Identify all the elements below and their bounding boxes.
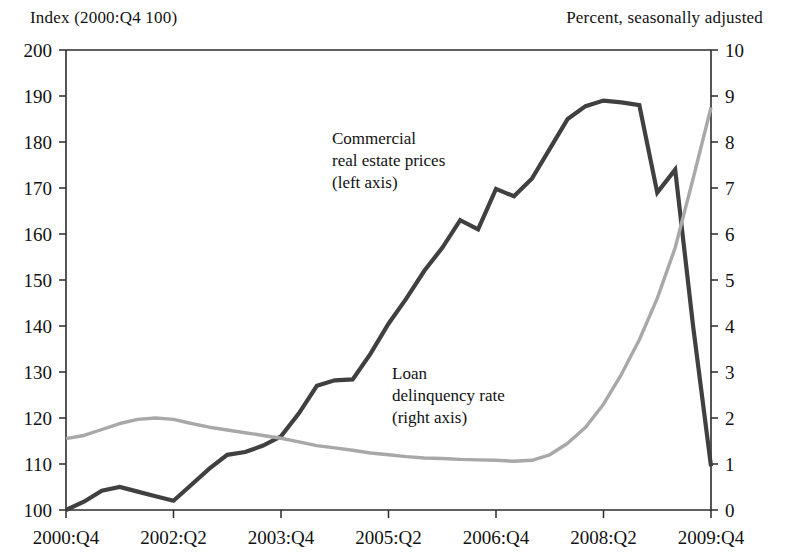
right-tick-label: 9 [725, 86, 735, 107]
left-tick-label: 120 [24, 408, 53, 429]
right-tick-label: 6 [725, 224, 735, 245]
right-tick-label: 7 [725, 178, 735, 199]
annotation-del-line3: (right axis) [392, 407, 505, 429]
annotation-del-line1: Loan [392, 363, 505, 385]
right-tick-label: 8 [725, 132, 735, 153]
right-tick-label: 2 [725, 408, 735, 429]
x-tick-label: 2009:Q4 [678, 527, 745, 548]
annotation-cre-line3: (left axis) [332, 172, 445, 194]
right-tick-label: 0 [725, 500, 735, 521]
axis-labels-group: 1001101201301401501601701801902000123456… [24, 40, 745, 548]
axes-group [66, 50, 711, 510]
x-tick-label: 2008:Q2 [570, 527, 637, 548]
left-tick-label: 200 [24, 40, 53, 61]
ticks-group [59, 50, 718, 518]
annotation-loan-delinquency: Loan delinquency rate (right axis) [392, 363, 505, 428]
right-tick-label: 3 [725, 362, 735, 383]
right-tick-label: 10 [725, 40, 744, 61]
annotation-cre-line1: Commercial [332, 128, 445, 150]
left-tick-label: 100 [24, 500, 53, 521]
annotation-del-line2: delinquency rate [392, 385, 505, 407]
left-tick-label: 190 [24, 86, 53, 107]
left-tick-label: 110 [24, 454, 52, 475]
left-tick-label: 130 [24, 362, 53, 383]
x-tick-label: 2005:Q2 [355, 527, 422, 548]
x-tick-label: 2003:Q4 [248, 527, 315, 548]
left-tick-label: 140 [24, 316, 53, 337]
chart-container: Index (2000:Q4 100) Percent, seasonally … [0, 0, 787, 557]
left-tick-label: 150 [24, 270, 53, 291]
right-tick-label: 4 [725, 316, 735, 337]
x-tick-label: 2002:Q2 [140, 527, 207, 548]
left-tick-label: 170 [24, 178, 53, 199]
plot-svg: 1001101201301401501601701801902000123456… [0, 0, 787, 557]
left-tick-label: 160 [24, 224, 53, 245]
right-tick-label: 1 [725, 454, 735, 475]
annotation-cre-line2: real estate prices [332, 150, 445, 172]
right-tick-label: 5 [725, 270, 735, 291]
x-tick-label: 2000:Q4 [33, 527, 100, 548]
x-tick-label: 2006:Q4 [463, 527, 530, 548]
left-tick-label: 180 [24, 132, 53, 153]
annotation-commercial-real-estate: Commercial real estate prices (left axis… [332, 128, 445, 193]
